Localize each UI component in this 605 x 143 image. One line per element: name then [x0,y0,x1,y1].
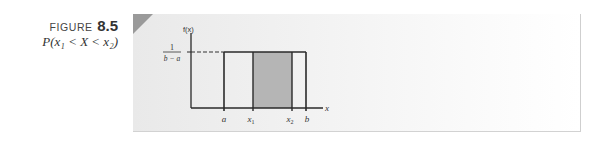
figure-caption: FIGURE 8.5 P(x₁ < X < x₂) [42,17,118,50]
figure-label: FIGURE [49,21,92,33]
x-tick-b: b [305,114,310,124]
y-axis-label: f(x) [183,25,194,34]
x-axis-label: x [324,103,329,113]
figure-subtitle: P(x₁ < X < x₂) [42,35,118,50]
y-tick-numerator: 1 [170,43,174,52]
uniform-density-plot: f(x) x 1 b − a a x1 x2 b [133,14,580,131]
shaded-probability-region [253,52,292,108]
x-tick-x2: x2 [286,114,294,125]
x-tick-a: a [222,114,227,124]
figure-number: 8.5 [97,17,118,34]
x-tick-x1: x1 [247,114,255,125]
figure-title: FIGURE 8.5 [42,17,118,35]
figure-panel: f(x) x 1 b − a a x1 x2 b [133,14,581,132]
y-tick-denominator: b − a [164,54,181,63]
